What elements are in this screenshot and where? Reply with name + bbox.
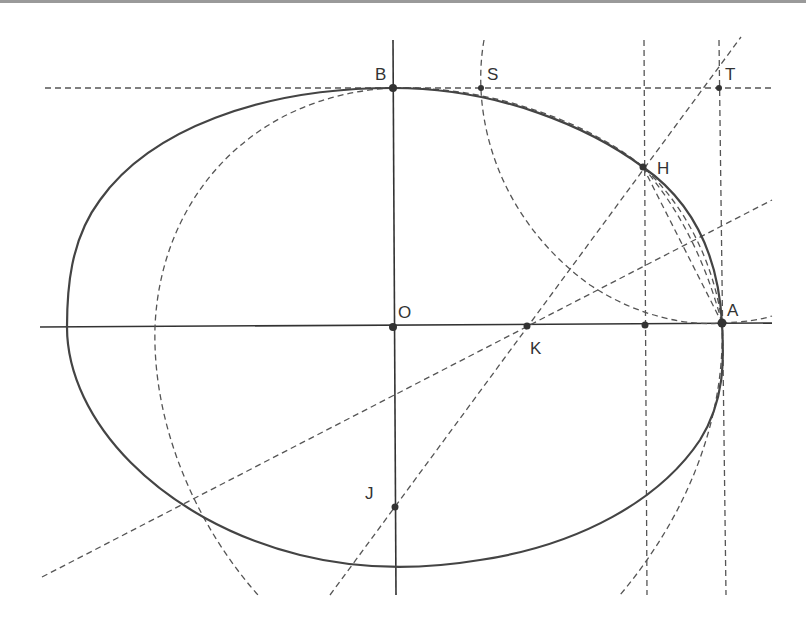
geometry-diagram: B S T H O K A J [0,0,806,625]
label-B: B [375,65,386,84]
point-H [640,164,647,171]
auxiliary-circle-left [155,88,393,595]
point-B [389,84,397,92]
point-S [478,85,484,91]
line-J-K-H [330,37,741,595]
point-H-foot [642,322,649,329]
point-T [716,85,722,91]
horizontal-axis [40,323,772,327]
label-T: T [725,65,735,84]
chord-H-A [643,167,722,323]
auxiliary-arc-lower-right [620,323,722,595]
label-H: H [657,159,669,178]
label-O: O [398,303,411,322]
diagram-canvas: B S T H O K A J [0,0,806,625]
vertical-through-H [644,40,647,595]
line-through-K [42,200,772,577]
label-J: J [365,484,374,503]
point-K [524,323,531,330]
point-J [392,504,399,511]
label-K: K [530,339,542,358]
label-A: A [727,301,739,320]
label-S: S [487,65,498,84]
vertical-axis [393,40,396,595]
point-A [718,319,727,328]
point-O [389,323,397,331]
auxiliary-arc-BHA [393,88,722,323]
arc-H-A-inner [643,167,722,323]
